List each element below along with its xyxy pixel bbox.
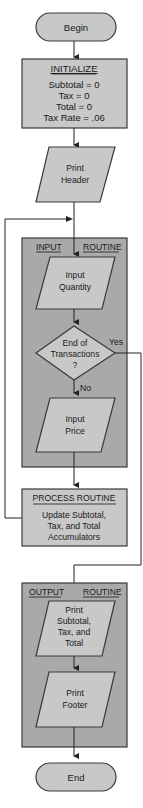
flowchart: Begin INITIALIZE Subtotal = 0 Tax = 0 To… bbox=[0, 0, 143, 808]
loop-arrowhead bbox=[66, 216, 73, 222]
print-totals-line: Print bbox=[65, 605, 83, 615]
decision-line: End of bbox=[63, 338, 88, 348]
output-routine-title-left: OUTPUT bbox=[29, 587, 65, 597]
print-header-io: Print Header bbox=[36, 147, 115, 202]
input-price-io: Input Price bbox=[36, 398, 115, 452]
process-line: Update Subtotal, bbox=[42, 510, 106, 520]
input-routine-title-left: INPUT bbox=[36, 242, 63, 252]
init-line: Subtotal = 0 bbox=[49, 79, 100, 90]
begin-label: Begin bbox=[64, 22, 88, 33]
end-label: End bbox=[68, 772, 85, 783]
input-quantity-line: Quantity bbox=[59, 282, 92, 292]
init-line: Tax Rate = .06 bbox=[43, 112, 105, 123]
input-routine-title-right: ROUTINE bbox=[83, 242, 122, 252]
print-footer-line: Footer bbox=[63, 700, 88, 710]
decision-line: Transactions bbox=[51, 349, 100, 359]
print-header-line: Print bbox=[66, 163, 84, 173]
print-totals-line: Subtotal, bbox=[57, 616, 91, 626]
initialize-box: INITIALIZE Subtotal = 0 Tax = 0 Total = … bbox=[22, 59, 127, 128]
print-totals-line: Tax, and bbox=[58, 627, 91, 637]
initialize-title: INITIALIZE bbox=[51, 63, 98, 74]
print-totals-line: Total bbox=[65, 638, 83, 648]
process-line: Accumulators bbox=[48, 532, 100, 542]
print-footer-line: Print bbox=[66, 688, 84, 698]
print-totals-io: Print Subtotal, Tax, and Total bbox=[36, 601, 115, 656]
process-routine-box: PROCESS ROUTINE Update Subtotal, Tax, an… bbox=[22, 489, 127, 546]
input-quantity-line: Input bbox=[65, 270, 85, 280]
input-quantity-io: Input Quantity bbox=[36, 257, 115, 309]
decision-line: ? bbox=[73, 360, 78, 370]
begin-terminator: Begin bbox=[36, 13, 116, 41]
init-line: Tax = 0 bbox=[59, 90, 90, 101]
output-routine-title-right: ROUTINE bbox=[83, 587, 122, 597]
process-routine-title: PROCESS ROUTINE bbox=[32, 493, 115, 503]
end-terminator: End bbox=[36, 763, 116, 791]
print-header-line: Header bbox=[61, 175, 89, 185]
process-line: Tax, and Total bbox=[48, 521, 101, 531]
init-line: Total = 0 bbox=[56, 101, 92, 112]
input-price-line: Price bbox=[65, 426, 85, 436]
print-footer-io: Print Footer bbox=[36, 672, 115, 727]
yes-label: Yes bbox=[109, 337, 123, 347]
no-label: No bbox=[80, 383, 91, 393]
input-price-line: Input bbox=[65, 414, 85, 424]
